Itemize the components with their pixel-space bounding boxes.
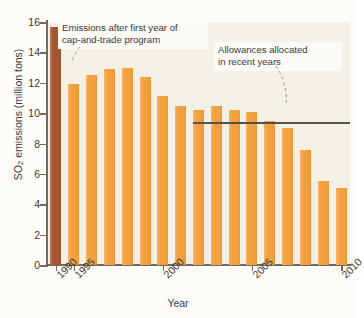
leader-line-cap-and-trade: [72, 45, 81, 60]
leader-line-allowances: [276, 66, 286, 106]
